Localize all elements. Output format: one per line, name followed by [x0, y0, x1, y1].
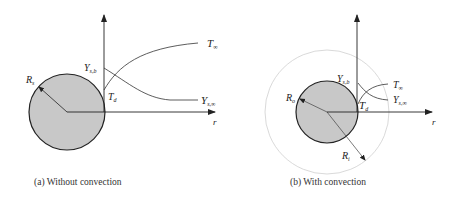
label-rs: Rs — [25, 74, 35, 86]
caption-b: (b) With convection — [290, 177, 366, 188]
label-t-inf: T∞ — [207, 37, 218, 50]
label-ys-inf: Ys,∞ — [393, 94, 407, 106]
label-ysb: Ys,b — [84, 62, 96, 74]
droplet-diagram: Rs Ys,b Td T∞ Ys,∞ r (a) Without convect… — [0, 0, 456, 206]
label-ro: Ro — [285, 92, 295, 104]
panel-b-with-convection: Ro Ri Ys,b Td T∞ Ys,∞ r (b) With convect… — [265, 15, 436, 188]
label-ri: Ri — [341, 150, 350, 162]
label-t-inf: T∞ — [393, 79, 404, 91]
vapor-fraction-curve — [104, 68, 198, 100]
panel-a-without-convection: Rs Ys,b Td T∞ Ys,∞ r (a) Without convect… — [25, 15, 218, 188]
label-td: Td — [108, 91, 118, 103]
label-ys-inf: Ys,∞ — [201, 94, 216, 107]
label-td: Td — [359, 99, 369, 112]
label-r: r — [432, 117, 436, 127]
label-ysb: Ys,b — [337, 73, 349, 85]
caption-a: (a) Without convection — [34, 177, 122, 188]
temperature-curve — [104, 43, 198, 90]
label-r: r — [213, 117, 217, 127]
